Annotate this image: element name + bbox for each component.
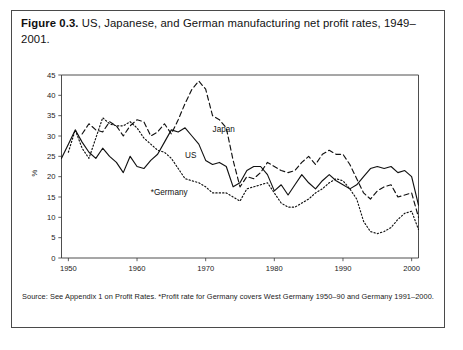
source-note: Source: See Appendix 1 on Profit Rates. … xyxy=(22,292,434,302)
figure-frame xyxy=(11,10,445,328)
figure-caption: Figure 0.3. US, Japanese, and German man… xyxy=(21,16,419,47)
figure-caption-text: US, Japanese, and German manufacturing n… xyxy=(21,17,416,45)
figure-number: Figure 0.3. xyxy=(21,17,79,29)
